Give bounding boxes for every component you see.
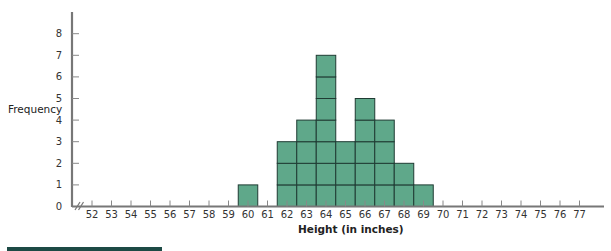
y-tick-label: 3 [56,136,62,147]
footer-accent-bar [7,247,162,251]
x-tick-label: 52 [86,209,99,220]
histogram-cell [316,120,336,142]
histogram-cell [355,163,375,185]
histogram-cell [355,142,375,164]
y-tick-label: 4 [56,115,62,126]
x-tick-label: 62 [281,209,294,220]
x-tick-label: 65 [339,209,352,220]
histogram-cell [375,142,395,164]
histogram-cell [316,163,336,185]
y-tick-label: 6 [56,71,62,82]
x-tick-label: 75 [534,209,547,220]
x-tick-label: 74 [515,209,528,220]
histogram-cell [297,142,317,164]
histogram-cell [375,120,395,142]
histogram-cell [316,99,336,121]
x-tick-label: 63 [300,209,313,220]
x-tick-label: 73 [495,209,508,220]
x-tick-label: 61 [261,209,274,220]
x-tick-label: 67 [378,209,391,220]
y-ticks: 012345678 [56,28,79,212]
x-tick-label: 55 [144,209,157,220]
x-tick-label: 60 [242,209,255,220]
x-tick-label: 70 [437,209,450,220]
histogram-cell [316,55,336,77]
x-tick-label: 57 [183,209,196,220]
histogram-cell [375,163,395,185]
x-tick-label: 72 [476,209,489,220]
x-axis-title: Height (in inches) [298,223,404,235]
x-tick-label: 53 [105,209,118,220]
y-tick-label: 7 [56,50,62,61]
histogram-cell [394,163,414,185]
bars-group [238,55,433,206]
histogram-cell [297,163,317,185]
y-tick-label: 1 [56,179,62,190]
histogram-cell [336,142,356,164]
x-tick-label: 59 [222,209,235,220]
x-tick-label: 76 [554,209,567,220]
x-tick-label: 58 [203,209,216,220]
x-tick-label: 54 [125,209,138,220]
y-axis-title: Frequency [8,103,62,115]
y-tick-label: 8 [56,28,62,39]
x-tick-label: 68 [398,209,411,220]
x-tick-label: 56 [164,209,177,220]
x-tick-label: 66 [359,209,372,220]
x-tick-label: 71 [456,209,469,220]
histogram-cell [355,120,375,142]
histogram-cell [297,120,317,142]
histogram-cell [277,142,297,164]
x-tick-label: 69 [417,209,430,220]
histogram-cell [355,99,375,121]
x-tick-label: 64 [320,209,333,220]
histogram-cell [316,142,336,164]
histogram-cell [316,77,336,99]
y-tick-label: 0 [56,201,62,212]
y-tick-label: 2 [56,158,62,169]
x-tick-label: 77 [573,209,586,220]
histogram-cell [277,163,297,185]
histogram-cell [336,163,356,185]
